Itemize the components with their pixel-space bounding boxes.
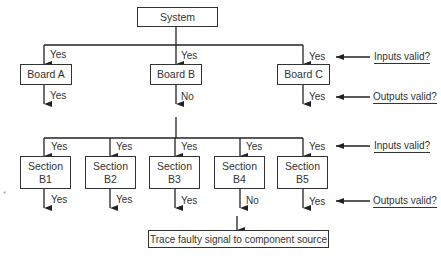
- section-b2-label-line1: Section: [93, 160, 128, 173]
- section-b3-input-result: Yes: [181, 141, 197, 152]
- section-b4-output-result: No: [246, 195, 259, 206]
- section-b5-output-result: Yes: [309, 196, 325, 207]
- section-b1-output-result: Yes: [51, 194, 67, 205]
- board-a-label: Board A: [27, 68, 64, 81]
- board-b-box: Board B: [150, 64, 202, 85]
- board-c-box: Board C: [277, 64, 330, 85]
- section-b3-output-result: Yes: [181, 195, 197, 206]
- system-label: System: [160, 11, 195, 24]
- section-b4-input-result: Yes: [246, 141, 262, 152]
- section-b3-box: Section B3: [149, 156, 200, 189]
- board-c-input-result: Yes: [309, 51, 325, 62]
- section-inputs-valid-question: Inputs valid?: [374, 140, 430, 153]
- final-action-box: Trace faulty signal to component source: [148, 230, 329, 248]
- board-b-label: Board B: [157, 68, 195, 81]
- section-b5-label-line1: Section: [285, 160, 320, 173]
- section-b2-box: Section B2: [85, 156, 136, 189]
- section-b2-output-result: Yes: [116, 194, 132, 205]
- section-b3-label-line1: Section: [157, 160, 192, 173]
- board-a-box: Board A: [20, 64, 72, 85]
- section-b1-label-line1: Section: [28, 160, 63, 173]
- section-outputs-valid-question: Outputs valid?: [373, 195, 437, 208]
- board-c-output-result: Yes: [309, 91, 325, 102]
- section-b2-label-line2: B2: [104, 173, 117, 186]
- section-b1-input-result: Yes: [51, 141, 67, 152]
- board-a-input-result: Yes: [50, 49, 66, 60]
- section-b4-box: Section B4: [214, 156, 265, 189]
- section-b5-input-result: Yes: [309, 141, 325, 152]
- section-b5-box: Section B5: [277, 156, 328, 189]
- board-b-input-result: Yes: [181, 50, 197, 61]
- outputs-valid-question: Outputs valid?: [373, 91, 437, 104]
- section-b2-input-result: Yes: [116, 141, 132, 152]
- section-b4-label-line2: B4: [233, 173, 246, 186]
- section-b4-label-line1: Section: [222, 160, 257, 173]
- section-b3-label-line2: B3: [168, 173, 181, 186]
- section-b1-label-line2: B1: [39, 173, 52, 186]
- board-c-label: Board C: [284, 68, 323, 81]
- system-box: System: [137, 7, 218, 27]
- board-a-output-result: Yes: [50, 90, 66, 101]
- final-action-label: Trace faulty signal to component source: [150, 233, 327, 246]
- inputs-valid-question: Inputs valid?: [374, 51, 430, 64]
- section-b5-label-line2: B5: [296, 173, 309, 186]
- connector-lines: [0, 0, 441, 268]
- section-b1-box: Section B1: [20, 156, 71, 189]
- stray-mark: *: [3, 189, 6, 198]
- board-b-output-result: No: [181, 91, 194, 102]
